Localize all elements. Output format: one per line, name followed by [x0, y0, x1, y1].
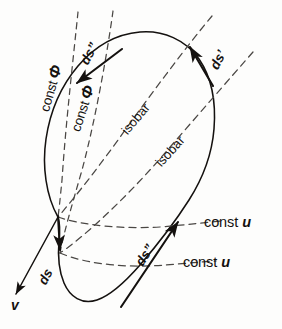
const-u-upper-line	[58, 217, 222, 228]
const-u-lower-prefix: const	[183, 254, 217, 270]
const-u-upper-symbol: u	[242, 214, 251, 230]
label-velocity-v: v	[11, 298, 19, 312]
velocity-v-vector	[16, 217, 58, 294]
figure-root: constΦ constΦ isobar isobar constu const…	[0, 0, 282, 329]
const-u-upper-prefix: const	[204, 214, 238, 230]
label-const-u-lower: constu	[183, 255, 230, 270]
label-const-u-upper: constu	[204, 215, 251, 230]
const-u-lower-symbol: u	[221, 254, 230, 270]
